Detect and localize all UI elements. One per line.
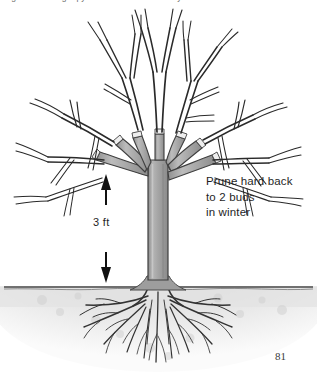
prune-annotation-line-3: in winter [206,205,310,221]
arrow-up-icon [101,174,111,205]
figure-page: Fig. 00: Training a pyramid tree — first… [0,0,317,375]
arrow-down-icon [101,252,111,283]
height-dimension-arrows [101,174,111,283]
page-number: 81 [275,350,286,362]
prune-annotation: Prune hard back to 2 buds in winter [206,174,310,221]
prune-annotation-line-2: to 2 buds [206,190,310,206]
tree-trunk [130,160,186,290]
prune-annotation-line-1: Prune hard back [206,174,310,190]
height-label: 3 ft [93,216,110,228]
